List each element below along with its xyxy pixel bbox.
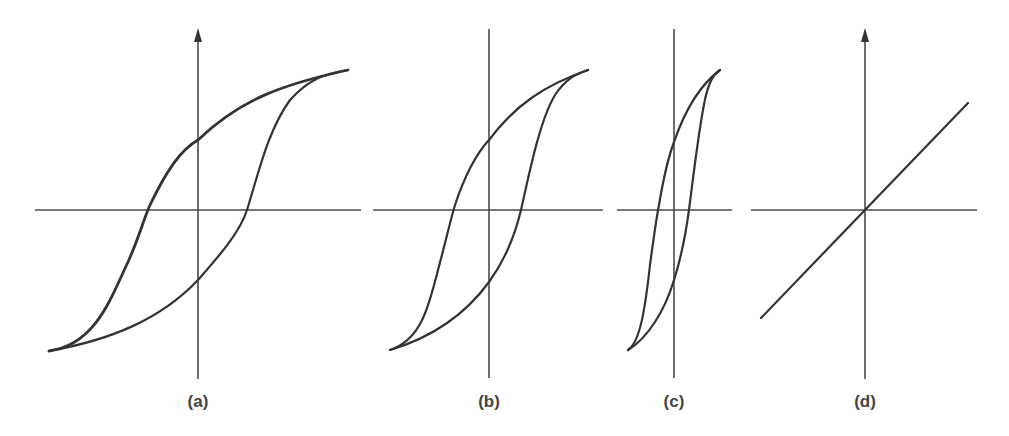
panel-b <box>373 29 603 378</box>
panel-a-arrow-up-icon <box>194 28 202 42</box>
panel-d-arrow-up-icon <box>861 28 869 42</box>
hysteresis-figure <box>0 0 1009 436</box>
panel-b-label: (b) <box>459 392 519 412</box>
panel-c-label: (c) <box>644 392 704 412</box>
panel-d-label: (d) <box>835 392 895 412</box>
panel-a <box>35 28 361 379</box>
panel-a-label: (a) <box>168 392 228 412</box>
panel-c <box>617 29 732 378</box>
panel-d <box>751 28 977 379</box>
